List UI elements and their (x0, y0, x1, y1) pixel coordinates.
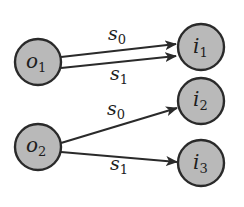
edge-label-o2-i2-s0: s0 (107, 97, 125, 122)
edge-label-o2-i3-s1: s1 (110, 152, 128, 177)
node-i3: i3 (178, 140, 224, 186)
node-i2: i2 (178, 78, 224, 124)
bipartite-diagram: s0 s1 s0 s1 o1 o2 i1 i2 i3 (0, 0, 244, 207)
node-o1: o1 (15, 39, 61, 85)
edge-label-o1-i1-s0: s0 (108, 22, 126, 47)
node-i1: i1 (178, 24, 224, 70)
node-o2: o2 (15, 124, 61, 170)
edge-label-o1-i1-s1: s1 (110, 62, 128, 87)
